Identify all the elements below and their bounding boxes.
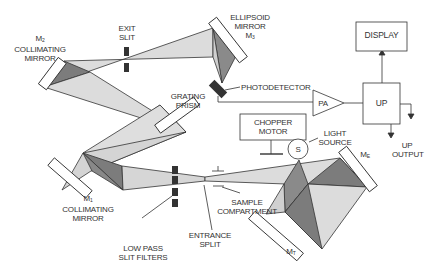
filter-1 [172,166,178,174]
entrance-slit-label: ENTRANCE SPLIT [188,231,232,249]
exit-slit-top [124,47,129,56]
sample-pointer [222,187,240,193]
m2-label: M2 COLLIMATING MIRROR [12,34,68,63]
entrance-pointer [204,185,212,230]
mt-label: MT [285,247,297,258]
up-label: UP [363,99,400,108]
filter-4 [172,199,178,207]
exit-slit-label: EXIT SLIT [116,24,138,42]
arrow-out-down [388,133,394,138]
m1-label: M1 COLLIMATING MIRROR [60,194,116,223]
chopper-motor-label: CHOPPER MOTOR [240,118,306,136]
source-s-label: S [292,145,304,154]
sample-compartment-label: SAMPLE COMPARTMENT [216,198,278,216]
display-label: DISPLAY [356,31,407,40]
arrow-out-right [408,114,414,119]
exit-slit-bottom [124,63,129,72]
filter-3 [172,188,178,196]
ellipsoid-mirror-label: ELLIPSOID MIRROR M3 [226,13,274,42]
beam-m1-entrance [122,166,205,190]
photodetector-pointer [225,87,240,90]
grating-prism-label: GRATING PRISM [170,92,206,110]
wire-detector-pa [218,96,313,102]
photodetector [209,80,227,98]
light-source-label: LIGHT SOURCE [318,129,352,147]
lowpass-pointer [142,196,172,218]
filter-2 [172,176,178,184]
up-output-label: UP OUTPUT [392,141,422,159]
photodetector-label: PHOTODETECTOR [241,83,311,92]
low-pass-filters-label: LOW PASS SLIT FILTERS [118,244,168,262]
wire-up-out-right [400,104,411,115]
me-label: ME [359,150,371,161]
light-source-pointer [309,138,318,142]
pa-label: PA [315,99,331,108]
